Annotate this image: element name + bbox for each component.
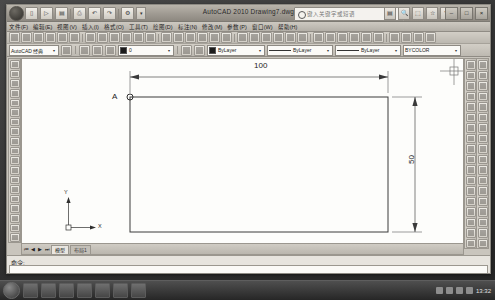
modify-tool-button-10[interactable]	[466, 155, 476, 165]
standard-toolbar-button-9[interactable]	[109, 32, 120, 43]
menu-item-draw[interactable]: 绘图(D)	[153, 23, 173, 31]
draw-tool-button-19[interactable]	[10, 233, 20, 242]
plotstyle-combo[interactable]: BYCOLOR ▾	[403, 45, 461, 56]
draw-tool-button-2[interactable]	[10, 70, 20, 79]
style-tool-button-1[interactable]	[478, 60, 488, 70]
modify-tool-button-4[interactable]	[466, 92, 476, 102]
taskbar-autocad-icon[interactable]	[95, 283, 110, 298]
standard-toolbar-button-8[interactable]	[97, 32, 108, 43]
standard-toolbar-button-24[interactable]	[297, 32, 308, 43]
standard-toolbar-button-22[interactable]	[273, 32, 284, 43]
subscription-center-icon[interactable]: ⬚	[412, 7, 424, 20]
draw-tool-button-13[interactable]	[10, 176, 20, 185]
modify-tool-button-8[interactable]	[466, 134, 476, 144]
tab-nav-last-button[interactable]: ⏭	[44, 246, 50, 253]
tab-layout1[interactable]: 布局1	[70, 245, 91, 254]
standard-toolbar-button-27[interactable]	[337, 32, 348, 43]
standard-toolbar-button-1[interactable]	[9, 32, 20, 43]
minimize-button[interactable]: –	[445, 7, 458, 20]
menu-item-window[interactable]: 窗口(W)	[252, 23, 273, 31]
draw-tool-button-15[interactable]	[10, 195, 20, 204]
lineweight-combo[interactable]: ByLayer ▾	[335, 45, 401, 56]
style-tool-button-17[interactable]	[478, 228, 488, 238]
command-input[interactable]	[9, 265, 488, 274]
standard-toolbar-button-34[interactable]	[425, 32, 436, 43]
modify-tool-button-15[interactable]	[466, 207, 476, 217]
standard-toolbar-button-5[interactable]	[57, 32, 68, 43]
menu-item-tools[interactable]: 工具(T)	[129, 23, 148, 31]
tray-volume-icon[interactable]	[446, 287, 453, 294]
draw-tool-button-16[interactable]	[10, 204, 20, 213]
close-button[interactable]: ×	[475, 7, 488, 20]
workspace-combo[interactable]: AutoCAD 经典 ▾	[9, 45, 59, 56]
draw-tool-button-5[interactable]	[10, 99, 20, 108]
style-tool-button-5[interactable]	[478, 102, 488, 112]
taskbar-media-icon[interactable]	[59, 283, 74, 298]
layer-combo[interactable]: 0 ▾	[118, 45, 174, 56]
workspace-settings-button[interactable]	[61, 45, 72, 56]
layer-lock-button[interactable]	[105, 45, 116, 56]
standard-toolbar-button-13[interactable]	[161, 32, 172, 43]
standard-toolbar-button-19[interactable]	[237, 32, 248, 43]
standard-toolbar-button-29[interactable]	[361, 32, 372, 43]
menu-item-modify[interactable]: 修改(M)	[202, 23, 222, 31]
standard-toolbar-button-25[interactable]	[313, 32, 324, 43]
modify-tool-button-18[interactable]	[466, 239, 476, 249]
layer-properties-button[interactable]	[79, 45, 90, 56]
modify-tool-button-7[interactable]	[466, 123, 476, 133]
standard-toolbar-button-3[interactable]	[33, 32, 44, 43]
style-tool-button-12[interactable]	[478, 176, 488, 186]
draw-tool-button-18[interactable]	[10, 224, 20, 233]
make-object-layer-current-button[interactable]	[181, 45, 192, 56]
taskbar-clock[interactable]: 13:32	[476, 288, 491, 294]
style-tool-button-4[interactable]	[478, 92, 488, 102]
tab-nav-first-button[interactable]: ⏮	[23, 246, 29, 253]
menu-item-view[interactable]: 视图(V)	[57, 23, 76, 31]
style-tool-button-18[interactable]	[478, 239, 488, 249]
standard-toolbar-button-16[interactable]	[197, 32, 208, 43]
taskbar-folder-icon[interactable]	[77, 283, 92, 298]
modify-tool-button-3[interactable]	[466, 81, 476, 91]
rectangle-object[interactable]	[130, 97, 388, 232]
tab-model[interactable]: 模型	[51, 245, 69, 254]
standard-toolbar-button-11[interactable]	[133, 32, 144, 43]
draw-tool-button-17[interactable]	[10, 214, 20, 223]
standard-toolbar-button-6[interactable]	[69, 32, 80, 43]
modify-tool-button-1[interactable]	[466, 60, 476, 70]
point-label-a[interactable]: A	[112, 92, 117, 101]
style-tool-button-14[interactable]	[478, 197, 488, 207]
maximize-button[interactable]: □	[460, 7, 473, 20]
style-tool-button-6[interactable]	[478, 113, 488, 123]
menu-item-format[interactable]: 格式(O)	[104, 23, 124, 31]
draw-tool-button-6[interactable]	[10, 108, 20, 117]
modify-tool-button-16[interactable]	[466, 218, 476, 228]
modify-tool-button-12[interactable]	[466, 176, 476, 186]
standard-toolbar-button-21[interactable]	[261, 32, 272, 43]
draw-tool-button-14[interactable]	[10, 185, 20, 194]
favorites-icon[interactable]: ☆	[426, 7, 438, 20]
taskbar-browser-icon[interactable]	[41, 283, 56, 298]
tab-nav-next-button[interactable]: ▶	[37, 246, 43, 252]
standard-toolbar-button-4[interactable]	[45, 32, 56, 43]
style-tool-button-8[interactable]	[478, 134, 488, 144]
dimension-text-vertical[interactable]: 50	[407, 155, 416, 164]
standard-toolbar-button-33[interactable]	[413, 32, 424, 43]
draw-tool-button-12[interactable]	[10, 166, 20, 175]
style-tool-button-16[interactable]	[478, 218, 488, 228]
taskbar-doc-icon[interactable]	[113, 283, 128, 298]
modify-tool-button-9[interactable]	[466, 144, 476, 154]
linetype-combo[interactable]: ByLayer ▾	[267, 45, 333, 56]
draw-tool-button-7[interactable]	[10, 118, 20, 127]
standard-toolbar-button-23[interactable]	[285, 32, 296, 43]
modify-tool-button-11[interactable]	[466, 165, 476, 175]
tab-nav-prev-button[interactable]: ◀	[30, 246, 36, 252]
standard-toolbar-button-26[interactable]	[325, 32, 336, 43]
start-orb-icon[interactable]	[3, 282, 20, 299]
modify-tool-button-2[interactable]	[466, 71, 476, 81]
standard-toolbar-button-18[interactable]	[221, 32, 232, 43]
standard-toolbar-button-7[interactable]	[85, 32, 96, 43]
standard-toolbar-button-20[interactable]	[249, 32, 260, 43]
draw-tool-button-3[interactable]	[10, 79, 20, 88]
modify-tool-button-17[interactable]	[466, 228, 476, 238]
style-tool-button-2[interactable]	[478, 71, 488, 81]
